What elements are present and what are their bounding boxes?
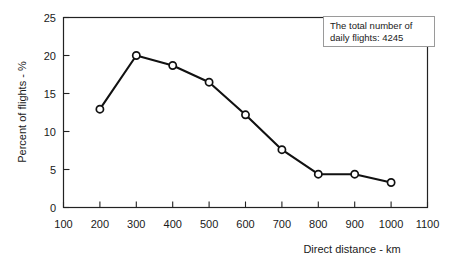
y-tick-label: 15 bbox=[44, 88, 56, 100]
x-tick-label: 500 bbox=[200, 218, 218, 230]
y-tick-label: 0 bbox=[50, 202, 56, 214]
x-tick-label: 300 bbox=[127, 218, 145, 230]
data-point bbox=[315, 171, 322, 178]
y-tick-label: 10 bbox=[44, 126, 56, 138]
y-axis-title: Percent of flights - % bbox=[16, 61, 28, 163]
series-percent-of-flights bbox=[96, 52, 394, 186]
flights-vs-distance-line-chart: 25 20 15 10 5 0 100 200 300 400 500 600 … bbox=[0, 0, 455, 265]
total-flights-note: The total number of daily flights: 4245 bbox=[324, 17, 435, 47]
note-line-2: daily flights: 4245 bbox=[330, 32, 403, 43]
chart-container: 25 20 15 10 5 0 100 200 300 400 500 600 … bbox=[0, 0, 455, 265]
x-tick-labels: 100 200 300 400 500 600 700 800 900 1000… bbox=[54, 218, 439, 230]
note-line-1: The total number of bbox=[330, 20, 413, 31]
data-point bbox=[351, 171, 358, 178]
y-tick-label: 25 bbox=[44, 12, 56, 24]
x-tick-label: 1100 bbox=[416, 218, 440, 230]
y-axis-ticks bbox=[64, 18, 70, 208]
data-point bbox=[96, 106, 103, 113]
x-tick-label: 800 bbox=[309, 218, 327, 230]
data-point bbox=[242, 111, 249, 118]
x-axis-title: Direct distance - km bbox=[303, 243, 400, 255]
x-tick-label: 600 bbox=[236, 218, 254, 230]
x-tick-label: 1000 bbox=[379, 218, 403, 230]
data-point bbox=[206, 79, 213, 86]
x-tick-label: 900 bbox=[346, 218, 364, 230]
y-tick-label: 5 bbox=[50, 164, 56, 176]
y-tick-labels: 25 20 15 10 5 0 bbox=[44, 12, 56, 214]
data-point bbox=[169, 62, 176, 69]
x-tick-label: 200 bbox=[91, 218, 109, 230]
x-tick-label: 700 bbox=[273, 218, 291, 230]
data-point bbox=[388, 179, 395, 186]
x-tick-label: 100 bbox=[54, 218, 72, 230]
x-tick-label: 400 bbox=[164, 218, 182, 230]
x-axis-ticks bbox=[64, 202, 428, 208]
data-point bbox=[133, 52, 140, 59]
y-tick-label: 20 bbox=[44, 50, 56, 62]
data-point bbox=[278, 146, 285, 153]
